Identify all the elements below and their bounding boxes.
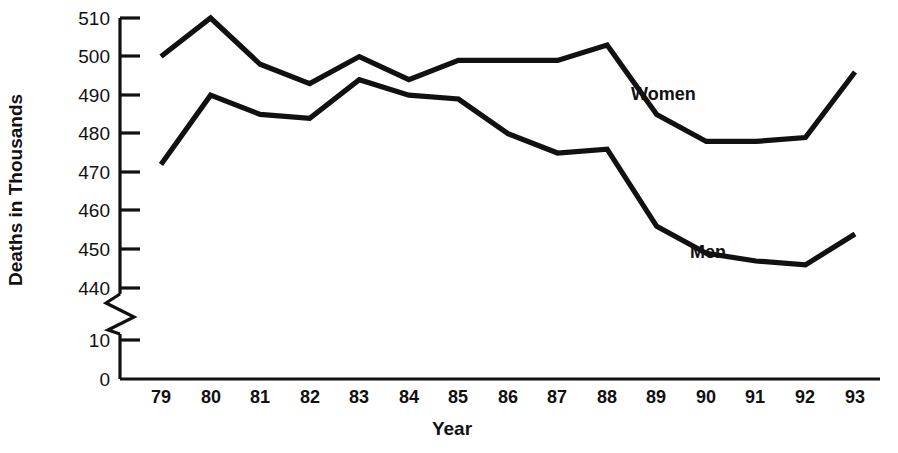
y-tick-label-510: 510 — [78, 8, 110, 29]
y-tick-label-500: 500 — [78, 46, 110, 67]
x-tick-label-87: 87 — [547, 387, 567, 407]
x-tick-label-89: 89 — [646, 387, 666, 407]
y-tick-label-440: 440 — [78, 278, 110, 299]
x-tick-label-93: 93 — [845, 387, 865, 407]
x-tick-label-88: 88 — [597, 387, 617, 407]
x-axis-title: Year — [432, 418, 473, 439]
y-tick-label-10: 10 — [89, 330, 110, 351]
chart-container: Deaths in Thousands 510 500 490 480 470 … — [0, 0, 898, 453]
x-tick-label-84: 84 — [399, 387, 419, 407]
x-tick-label-91: 91 — [745, 387, 765, 407]
x-tick-label-82: 82 — [300, 387, 320, 407]
line-chart: Deaths in Thousands 510 500 490 480 470 … — [0, 0, 898, 453]
x-tick-label-86: 86 — [498, 387, 518, 407]
x-tick-label-83: 83 — [349, 387, 369, 407]
y-tick-label-490: 490 — [78, 85, 110, 106]
y-tick-label-0: 0 — [99, 369, 110, 390]
x-tick-label-81: 81 — [250, 387, 270, 407]
y-axis-title: Deaths in Thousands — [5, 94, 26, 286]
x-tick-label-85: 85 — [448, 387, 468, 407]
series-annotation-men: Men — [690, 242, 726, 262]
y-tick-label-450: 450 — [78, 239, 110, 260]
x-tick-label-80: 80 — [201, 387, 221, 407]
x-tick-label-79: 79 — [151, 387, 171, 407]
x-tick-label-90: 90 — [696, 387, 716, 407]
series-annotation-women: Women — [631, 84, 696, 104]
y-tick-label-480: 480 — [78, 123, 110, 144]
y-tick-label-470: 470 — [78, 162, 110, 183]
x-tick-label-92: 92 — [795, 387, 815, 407]
chart-background — [0, 0, 898, 453]
y-tick-label-460: 460 — [78, 200, 110, 221]
